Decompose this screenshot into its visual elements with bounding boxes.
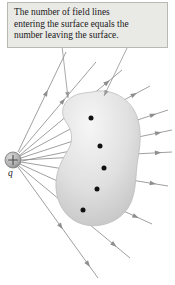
surface-dot-1 (89, 116, 94, 121)
physics-figure: The number of field lines entering the s… (0, 0, 175, 285)
caption-line-3: number leaving the surface. (14, 30, 162, 42)
surface-dot-5 (81, 208, 86, 213)
field-line-2-arrowhead-2 (130, 93, 137, 98)
field-line-4-arrowhead-2 (155, 151, 162, 156)
field-line-8-arrowhead-1 (57, 223, 63, 230)
surface-dot-4 (95, 187, 100, 192)
surface-dot-3 (102, 166, 107, 171)
caption-line-2: entering the surface equals the (14, 19, 162, 31)
caption-box: The number of field lines entering the s… (7, 2, 168, 48)
field-line-3-arrowhead-2 (149, 114, 156, 118)
field-line-6-arrowhead-2 (132, 213, 139, 218)
charge-label: q (8, 168, 13, 178)
caption-pointer-right (104, 46, 128, 96)
closed-gaussian-surface (56, 91, 140, 226)
caption-line-1: The number of field lines (14, 7, 162, 19)
field-line-10-arrowhead-1 (43, 90, 48, 97)
point-charge (5, 152, 21, 168)
surface-dot-2 (98, 144, 103, 149)
field-line-5-arrowhead-2 (149, 181, 156, 186)
field-line-8-arrowhead-2 (84, 260, 90, 267)
field-line-11-arrowhead-2 (155, 131, 162, 136)
